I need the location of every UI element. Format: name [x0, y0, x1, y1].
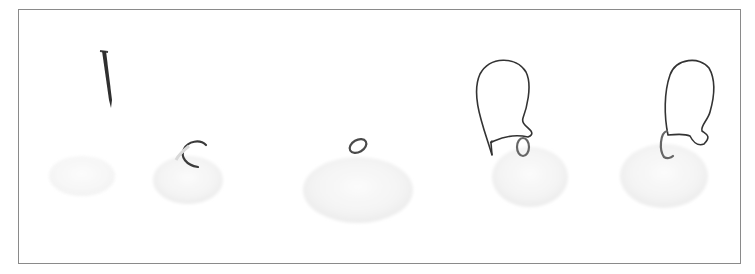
ear-wire-icon — [665, 60, 713, 144]
shell-5 — [620, 144, 708, 208]
step-1-nail-and-shell — [49, 51, 115, 196]
step-3-shell-closed-jump-ring — [303, 136, 413, 223]
shell-1 — [49, 156, 115, 196]
step-4-shell-ear-wire-attaching — [477, 60, 568, 207]
step-2-shell-open-jump-ring — [153, 142, 223, 204]
nail-icon — [100, 51, 112, 108]
step-5-finished-shell-earring — [620, 60, 714, 208]
ear-wire-icon — [477, 60, 532, 155]
shell-3 — [303, 157, 413, 223]
shell-4 — [492, 147, 568, 207]
closed-jump-ring-icon — [347, 136, 369, 155]
photo-scene — [0, 0, 755, 274]
